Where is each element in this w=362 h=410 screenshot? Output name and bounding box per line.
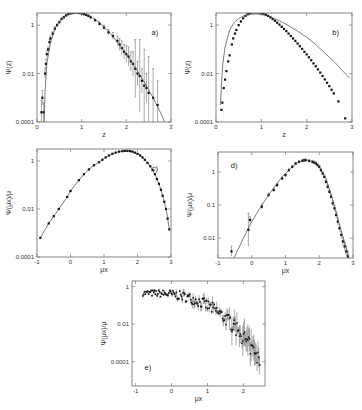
y-tick-label: 0.01 (22, 71, 34, 77)
x-tick-label: 1 (260, 124, 264, 130)
plot-area (39, 150, 170, 239)
plot-area (40, 11, 166, 134)
data-point (276, 22, 278, 24)
data-point (285, 30, 287, 32)
x-tick-label: 3 (351, 260, 355, 266)
data-point (221, 102, 223, 104)
data-point (53, 215, 55, 217)
y-tick-label: 1 (126, 284, 130, 290)
data-point (290, 35, 292, 37)
data-point (93, 164, 95, 166)
data-point (46, 53, 48, 55)
data-point (306, 53, 308, 55)
data-point (48, 222, 50, 224)
x-axis-label: z (102, 131, 106, 138)
y-tick-label: 0.01 (117, 321, 129, 327)
panel-label: e) (145, 363, 152, 372)
data-point (58, 208, 60, 210)
data-point (101, 159, 103, 161)
data-point (168, 228, 170, 230)
x-tick-label: 0 (250, 260, 254, 266)
data-point (224, 79, 226, 81)
data-point (331, 89, 333, 91)
data-point (317, 68, 319, 70)
data-point (156, 178, 158, 180)
data-point (227, 60, 229, 62)
data-point (141, 156, 143, 158)
y-axis-label: Ψ(μx)/μ (186, 193, 194, 217)
y-tick-label: 1 (212, 169, 216, 175)
data-point (344, 117, 346, 119)
panel-d-chart: -101230.010.11μxΨ(μx)/μd) (186, 152, 355, 275)
data-point (310, 59, 312, 61)
y-axis-label: Ψ(z) (184, 60, 192, 74)
y-tick-label: 1 (31, 158, 35, 164)
data-point (326, 82, 328, 84)
x-tick-label: 2 (305, 124, 309, 130)
fit-curve (40, 151, 169, 238)
data-point (165, 208, 167, 210)
data-point (283, 28, 285, 30)
x-tick-label: 3 (169, 124, 173, 130)
data-point (299, 45, 301, 47)
x-axis-label: μx (100, 266, 108, 274)
fit-curve (221, 14, 350, 105)
data-point (131, 151, 133, 153)
data-point (234, 32, 236, 34)
y-tick-label: 0.0001 (16, 119, 35, 125)
data-point (83, 173, 85, 175)
data-point (294, 40, 296, 42)
data-point (315, 65, 317, 67)
x-tick-label: 2 (136, 259, 140, 265)
data-point (40, 111, 42, 113)
data-point (144, 159, 146, 161)
data-point (312, 62, 314, 64)
data-point (308, 56, 310, 58)
data-point (333, 92, 335, 94)
x-tick-label: 0 (69, 259, 73, 265)
x-tick-label: 2 (242, 388, 246, 394)
data-point (158, 183, 160, 185)
data-point (139, 154, 141, 156)
y-axis-label: Ψ(μx)/μ (5, 191, 13, 215)
data-point (220, 109, 222, 111)
data-point (148, 92, 150, 94)
data-point (303, 51, 305, 53)
x-tick-label: 1 (206, 388, 210, 394)
y-tick-label: 0.0001 (111, 359, 130, 365)
x-tick-label: 3 (350, 124, 354, 130)
panel-label: a) (152, 28, 159, 37)
panel-label: c) (152, 164, 159, 173)
data-point (240, 20, 242, 22)
data-point (321, 75, 323, 77)
data-point (337, 100, 339, 102)
y-tick-label: 1 (31, 22, 35, 28)
data-point (162, 195, 164, 197)
data-point (225, 70, 227, 72)
data-point (328, 85, 330, 87)
data-point (108, 154, 110, 156)
y-axis-label: Ψ(z) (5, 60, 13, 74)
data-point (41, 97, 43, 99)
y-tick-label: 1 (210, 22, 214, 28)
data-point (163, 201, 165, 203)
data-point (281, 26, 283, 28)
y-tick-label: 0.01 (201, 71, 213, 77)
x-tick-label: 2 (318, 260, 322, 266)
data-point (134, 152, 136, 154)
data-point (154, 173, 156, 175)
plot-area (142, 289, 260, 375)
data-point (98, 161, 100, 163)
data-point (292, 37, 294, 39)
data-point (242, 17, 244, 19)
data-point (249, 219, 251, 221)
panel-label: b) (332, 28, 339, 37)
x-tick-label: 0 (35, 124, 39, 130)
data-point (278, 24, 280, 26)
data-point (115, 152, 117, 154)
x-tick-label: -1 (215, 260, 221, 266)
data-point (235, 29, 237, 31)
data-point (66, 196, 68, 198)
panel-label: d) (231, 161, 238, 170)
data-point (111, 153, 113, 155)
